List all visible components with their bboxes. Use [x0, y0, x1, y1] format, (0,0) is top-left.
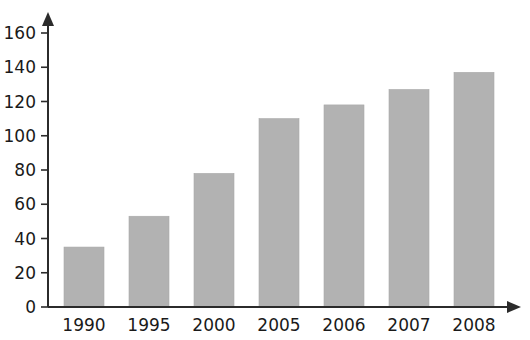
- bar: [259, 119, 299, 307]
- y-tick-label: 40: [14, 229, 36, 249]
- bar-chart: 020406080100120140160 199019952000200520…: [0, 0, 530, 340]
- x-tick-label: 2006: [322, 315, 365, 335]
- x-tick-label: 2005: [257, 315, 300, 335]
- y-tick-label: 120: [4, 92, 36, 112]
- x-axis-arrow-icon: [507, 301, 521, 313]
- y-tick-label: 60: [14, 194, 36, 214]
- chart-canvas: 020406080100120140160 199019952000200520…: [0, 0, 530, 340]
- bar: [129, 216, 169, 307]
- bars-group: [64, 72, 494, 307]
- bar: [454, 72, 494, 307]
- bar: [389, 90, 429, 307]
- y-axis-arrow-icon: [42, 12, 54, 26]
- y-axis-ticks: 020406080100120140160: [4, 23, 48, 317]
- x-tick-label: 2007: [387, 315, 430, 335]
- y-tick-label: 140: [4, 57, 36, 77]
- y-tick-label: 20: [14, 263, 36, 283]
- x-tick-label: 1990: [62, 315, 105, 335]
- x-axis-ticks: 1990199520002005200620072008: [62, 315, 495, 335]
- bar: [324, 105, 364, 307]
- x-tick-label: 1995: [127, 315, 170, 335]
- bar: [194, 173, 234, 307]
- x-tick-label: 2000: [192, 315, 235, 335]
- y-tick-label: 0: [25, 297, 36, 317]
- y-tick-label: 100: [4, 126, 36, 146]
- y-tick-label: 80: [14, 160, 36, 180]
- y-tick-label: 160: [4, 23, 36, 43]
- bar: [64, 247, 104, 307]
- x-tick-label: 2008: [452, 315, 495, 335]
